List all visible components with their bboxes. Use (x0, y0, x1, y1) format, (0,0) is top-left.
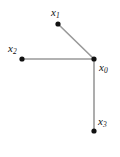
node-label-x0: x0 (99, 62, 108, 73)
node-label-x3: x3 (98, 116, 107, 127)
node-label-x3-subscript: 3 (103, 120, 107, 129)
node-x1 (55, 21, 60, 26)
node-label-x2: x2 (8, 43, 17, 54)
node-x2 (19, 56, 24, 61)
graph-diagram: x1 x2 x0 x3 (0, 0, 120, 157)
node-x0 (91, 56, 96, 61)
edge-group (22, 24, 94, 131)
node-label-x1: x1 (51, 7, 60, 18)
node-label-x1-subscript: 1 (56, 11, 60, 20)
node-label-x2-subscript: 2 (13, 47, 17, 56)
node-x3 (91, 128, 96, 133)
graph-canvas (0, 0, 120, 157)
edge-x1-x0 (58, 24, 94, 59)
node-label-x0-subscript: 0 (104, 66, 108, 75)
node-group (19, 21, 96, 133)
